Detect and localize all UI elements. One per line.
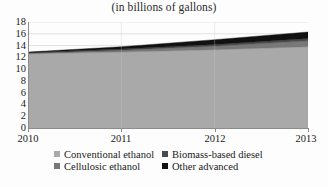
legend-swatch-icon [162,163,168,169]
y-tick-label: 8 [0,76,26,87]
legend-swatch-icon [54,163,60,169]
y-tick-label: 6 [0,88,26,99]
y-tick-label: 16 [0,29,26,40]
legend-item-cellulosic-ethanol[interactable]: Cellulosic ethanol [54,161,162,172]
legend-swatch-icon [162,151,168,157]
x-tick-label: 2013 [284,133,328,144]
legend-item-other-advanced[interactable]: Other advanced [162,161,312,172]
chart-title: (in billions of gallons) [0,1,328,13]
x-axis-line [28,128,309,129]
legend-label: Other advanced [172,161,238,172]
x-tick-label: 2012 [193,133,237,144]
legend-label: Cellulosic ethanol [64,161,140,172]
y-tick-label: 10 [0,64,26,75]
x-tick-label: 2011 [99,133,143,144]
y-tick-label: 12 [0,52,26,63]
plot-svg [28,22,308,128]
y-axis-line [28,22,29,129]
y-tick-label: 2 [0,111,26,122]
legend-item-conventional-ethanol[interactable]: Conventional ethanol [54,149,162,160]
y-tick-label: 14 [0,41,26,52]
chart-legend: Conventional ethanol Biomass-based diese… [54,148,322,172]
y-tick-label: 4 [0,99,26,110]
stacked-area-chart: (in billions of gallons) 18 16 14 12 10 … [0,0,328,187]
plot-area [28,22,308,128]
area-series [28,47,308,128]
legend-item-biomass-based-diesel[interactable]: Biomass-based diesel [162,149,312,160]
y-tick-label: 18 [0,17,26,28]
y-axis-tick-labels: 18 16 14 12 10 8 6 4 2 0 [0,0,26,187]
legend-swatch-icon [54,151,60,157]
x-tick-label: 2010 [6,133,50,144]
x-axis-tick-labels: 2010 2011 2012 2013 [0,131,328,145]
legend-label: Conventional ethanol [64,149,154,160]
legend-label: Biomass-based diesel [172,149,263,160]
